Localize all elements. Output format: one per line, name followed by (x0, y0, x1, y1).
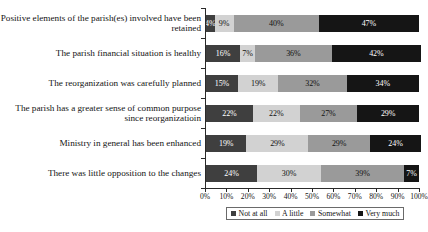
segment-value-label: 32% (305, 79, 319, 88)
chart-row: There was little opposition to the chang… (0, 158, 428, 188)
y-axis-tick (201, 68, 206, 69)
category-label: The parish has a greater sense of common… (0, 103, 205, 124)
x-axis-tick-label: 50% (305, 192, 319, 201)
bar-segment: 36% (255, 45, 332, 62)
legend-swatch-icon (275, 211, 280, 216)
x-axis-tick-label: 80% (369, 192, 383, 201)
segment-value-label: 29% (270, 139, 284, 148)
x-axis-tick (269, 188, 270, 192)
x-axis-tick-labels: 0%10%20%30%40%50%60%70%80%90%100% (205, 192, 419, 204)
x-axis-tick (205, 188, 206, 192)
category-label: The reorganization was carefully planned (0, 78, 205, 89)
bar-track: 4%9%40%47% (205, 8, 428, 38)
segment-value-label: 22% (269, 109, 283, 118)
bar-segment: 24% (370, 135, 421, 152)
segment-value-label: 34% (376, 79, 390, 88)
legend-swatch-icon (310, 211, 315, 216)
segment-value-label: 19% (219, 139, 233, 148)
segment-value-label: 15% (215, 79, 229, 88)
bar-segment: 19% (206, 135, 246, 152)
legend-item[interactable]: Somewhat (310, 209, 350, 218)
bar-segment: 22% (206, 105, 253, 122)
bar-track: 19%29%29%24% (205, 128, 428, 158)
bar-track: 15%19%32%34% (205, 68, 428, 98)
x-axis-tick-label: 60% (326, 192, 340, 201)
bar-segment: 27% (300, 105, 358, 122)
chart-row: The parish has a greater sense of common… (0, 98, 428, 128)
bar-segment: 19% (238, 75, 278, 92)
bar-segment: 4% (206, 15, 215, 32)
x-axis-tick-label: 30% (262, 192, 276, 201)
segment-value-label: 9% (219, 19, 229, 28)
chart-row: Ministry in general has been enhanced19%… (0, 128, 428, 158)
segment-value-label: 29% (381, 109, 395, 118)
segment-value-label: 16% (216, 49, 230, 58)
legend-item[interactable]: Very much (358, 209, 400, 218)
legend-item[interactable]: Not at all (231, 209, 268, 218)
legend-item[interactable]: A little (275, 209, 304, 218)
bar-segment: 15% (206, 75, 238, 92)
bar-segment: 30% (257, 165, 321, 182)
x-axis-tick (226, 188, 227, 192)
bar-segment: 29% (246, 135, 308, 152)
legend-swatch-icon (231, 211, 236, 216)
legend-label: A little (282, 209, 303, 218)
bar-track: 24%30%39%7% (205, 158, 428, 188)
chart-legend: Not at allA littleSomewhatVery much (226, 207, 404, 220)
segment-value-label: 39% (355, 169, 369, 178)
chart-row: Positive elements of the parish(es) invo… (0, 8, 428, 38)
stacked-bar: 15%19%32%34% (206, 75, 419, 92)
stacked-bar: 24%30%39%7% (206, 165, 419, 182)
bar-segment: 32% (278, 75, 346, 92)
segment-value-label: 40% (269, 19, 283, 28)
x-axis-tick (333, 188, 334, 192)
category-label: There was little opposition to the chang… (0, 168, 205, 179)
bar-segment: 42% (332, 45, 421, 62)
segment-value-label: 22% (222, 109, 236, 118)
x-axis-tick-label: 20% (241, 192, 255, 201)
bar-segment: 39% (321, 165, 404, 182)
bar-segment: 29% (308, 135, 370, 152)
x-axis-tick (398, 188, 399, 192)
x-axis-tick (419, 188, 420, 192)
bar-segment: 40% (234, 15, 319, 32)
segment-value-label: 27% (321, 109, 335, 118)
legend-label: Not at all (239, 209, 268, 218)
segment-value-label: 4% (206, 19, 215, 28)
bar-segment: 9% (215, 15, 234, 32)
segment-value-label: 7% (406, 169, 416, 178)
stacked-bar: 16%7%36%42% (206, 45, 419, 62)
x-axis-tick-label: 0% (200, 192, 210, 201)
bar-segment: 7% (404, 165, 419, 182)
chart-row: The reorganization was carefully planned… (0, 68, 428, 98)
segment-value-label: 30% (282, 169, 296, 178)
legend-swatch-icon (358, 211, 363, 216)
segment-value-label: 24% (388, 139, 402, 148)
y-axis-tick (201, 158, 206, 159)
stacked-bar: 4%9%40%47% (206, 15, 419, 32)
stacked-bar: 22%22%27%29% (206, 105, 419, 122)
bar-segment: 24% (206, 165, 257, 182)
segment-value-label: 29% (332, 139, 346, 148)
bar-track: 22%22%27%29% (205, 98, 428, 128)
segment-value-label: 42% (369, 49, 383, 58)
y-axis-tick (201, 8, 206, 9)
x-axis-tick (355, 188, 356, 192)
segment-value-label: 19% (251, 79, 265, 88)
bar-segment: 29% (357, 105, 419, 122)
x-axis-tick-label: 40% (284, 192, 298, 201)
y-axis-tick (201, 38, 206, 39)
x-axis-tick-label: 100% (410, 192, 428, 201)
x-axis-tick-label: 70% (348, 192, 362, 201)
segment-value-label: 7% (242, 49, 252, 58)
stacked-bar: 19%29%29%24% (206, 135, 419, 152)
segment-value-label: 36% (286, 49, 300, 58)
stacked-bar-chart: Positive elements of the parish(es) invo… (0, 0, 428, 232)
x-axis-tick (312, 188, 313, 192)
bar-segment: 22% (253, 105, 300, 122)
category-label: Positive elements of the parish(es) invo… (0, 13, 205, 34)
category-label: Ministry in general has been enhanced (0, 138, 205, 149)
category-label: The parish financial situation is health… (0, 48, 205, 59)
bar-segment: 34% (347, 75, 419, 92)
y-axis-tick (201, 128, 206, 129)
